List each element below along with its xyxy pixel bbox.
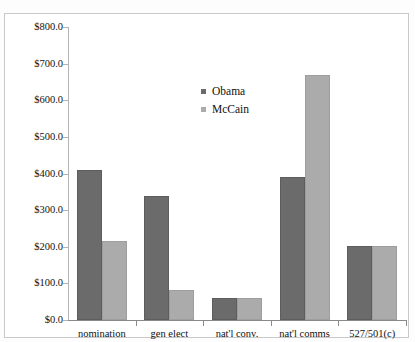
bar-group [271,27,339,321]
bar-mccain-gen-elect[interactable] [169,290,194,320]
y-axis-tick [63,283,68,284]
y-axis-tick-label: $800.0 [34,21,63,32]
y-axis-tick-label: $0.0 [45,314,63,325]
x-axis-separator [406,320,407,326]
bar-obama-gen-elect[interactable] [144,196,169,320]
bar-mccain-nat-l-conv-[interactable] [237,298,262,320]
bar-group [203,27,271,321]
chart-frame: $800.0$700.0$600.0$500.0$400.0$300.0$200… [4,13,409,338]
bar-mccain-nomination[interactable] [102,241,127,320]
y-axis-tick [63,100,68,101]
bar-pair [68,27,136,320]
x-axis-separator [136,320,137,326]
y-axis-tick-label: $100.0 [34,277,63,288]
bar-mccain-527-501-c-[interactable] [372,246,397,320]
y-axis-tick [63,137,68,138]
legend-label: Obama [212,85,245,98]
y-axis-tick-label: $600.0 [34,94,63,105]
y-axis-tick-label: $300.0 [34,204,63,215]
bar-obama-nat-l-conv-[interactable] [212,298,237,320]
y-axis-tick-label: $200.0 [34,241,63,252]
bar-pair [271,27,339,320]
y-axis-tick [63,64,68,65]
y-axis-tick [63,247,68,248]
clipped-title-strip [0,0,415,13]
plot-area [68,27,406,321]
legend-swatch-obama-icon [201,89,206,94]
x-axis-separator [271,320,272,326]
plot-inner [68,27,406,321]
x-axis-category-label: 527/501(c) [338,327,406,342]
bar-pair [203,27,271,320]
bar-groups [68,27,406,321]
bar-pair [338,27,406,320]
y-axis-labels: $800.0$700.0$600.0$500.0$400.0$300.0$200… [5,27,63,321]
x-axis-separator [338,320,339,326]
y-axis-tick [63,320,68,321]
bar-obama-527-501-c-[interactable] [347,246,372,320]
chart-page: $800.0$700.0$600.0$500.0$400.0$300.0$200… [0,0,415,342]
x-axis-category-label: nat'l comms [271,327,339,342]
bar-pair [136,27,204,320]
bar-obama-nat-l-comms[interactable] [280,177,305,320]
legend-entry-mccain[interactable]: McCain [201,100,249,118]
y-axis-tick [63,27,68,28]
legend-label: McCain [212,103,249,116]
y-axis-tick [63,174,68,175]
y-axis-tick-label: $500.0 [34,131,63,142]
bar-group [338,27,406,321]
x-axis-category-label: gen elect [136,327,204,342]
y-axis-tick-label: $400.0 [34,168,63,179]
x-axis-labels: nominationgen electnat'l conv.nat'l comm… [68,327,406,342]
y-axis-tick [63,210,68,211]
bar-mccain-nat-l-comms[interactable] [305,75,330,320]
legend-entry-obama[interactable]: Obama [201,82,249,100]
bar-group [68,27,136,321]
bar-group [136,27,204,321]
chart-legend: ObamaMcCain [201,82,249,118]
x-axis-category-label: nat'l conv. [203,327,271,342]
x-axis-separator [203,320,204,326]
x-axis-category-label: nomination [68,327,136,342]
bar-obama-nomination[interactable] [77,170,102,320]
y-axis-tick-label: $700.0 [34,58,63,69]
legend-swatch-mccain-icon [201,107,206,112]
